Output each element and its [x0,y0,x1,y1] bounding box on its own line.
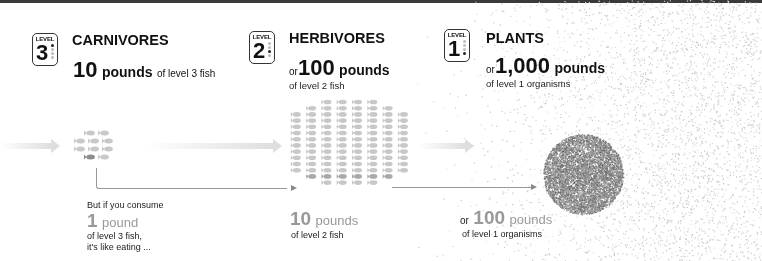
fish [352,149,362,154]
fish [291,168,301,173]
fish [352,143,362,148]
fish [98,130,109,135]
fish [321,143,331,148]
comparison-level-2-desc: of level 2 fish [291,230,344,241]
fish [367,100,377,105]
fish [321,100,331,105]
fish [352,118,362,123]
fish [367,137,377,142]
fish [398,162,408,167]
fish [337,162,347,167]
fish [352,112,362,117]
fish [398,168,408,173]
fish-highlighted [84,154,95,159]
fish [337,112,347,117]
fish-highlighted [321,174,331,179]
equiv-level-1-unit: pounds [510,212,553,227]
fish [321,106,331,111]
fish [291,112,301,117]
fish [367,180,377,185]
equiv-level-1-prefix: or [460,215,469,226]
comparison-consume-desc-2: it's like eating ... [87,242,151,253]
fish [383,131,393,136]
fish [291,162,301,167]
fish-highlighted [352,174,362,179]
fish [306,106,316,111]
fish [306,124,316,129]
consume-value: 1 [87,210,98,231]
fish [337,118,347,123]
fish [352,155,362,160]
fish [74,138,85,143]
comparison-consume-amount: 1 pound [87,210,138,232]
fish [398,124,408,129]
fish-highlighted [367,174,377,179]
fish [321,131,331,136]
fish [102,138,113,143]
fish [102,146,113,151]
fish [321,137,331,142]
fish [398,149,408,154]
fish [383,118,393,123]
fish [306,162,316,167]
fish [398,131,408,136]
fish [98,154,109,159]
fish [337,124,347,129]
fish [321,112,331,117]
fish [352,106,362,111]
fish [337,100,347,105]
fish [352,180,362,185]
equiv-level-1-value: 100 [473,207,505,228]
connector-arrowhead-level-1 [531,184,537,190]
fish [367,124,377,129]
fish [352,162,362,167]
fish [306,118,316,123]
equiv-level-2-value: 10 [290,208,311,229]
fish [337,137,347,142]
consume-unit: pound [102,215,138,230]
fish-highlighted [383,174,393,179]
fish-highlighted [337,174,347,179]
fish [383,149,393,154]
fish [352,168,362,173]
fish [367,131,377,136]
fish [337,168,347,173]
fish [337,106,347,111]
fish [84,130,95,135]
fish [367,143,377,148]
fish [367,149,377,154]
fish [88,138,99,143]
fish [398,112,408,117]
fish [321,162,331,167]
comparison-level-2-amount: 10 pounds [290,208,358,230]
comparison-level-1-desc: of level 1 organisms [462,229,542,240]
fish [291,137,301,142]
fish [337,131,347,136]
fish [383,106,393,111]
fish [74,146,85,151]
fish [352,100,362,105]
fish [398,137,408,142]
fish [367,155,377,160]
fish [383,143,393,148]
fish [321,149,331,154]
connector-line-to-level-1 [392,187,532,188]
fish [383,112,393,117]
fish [306,112,316,117]
fish [383,137,393,142]
fish [306,137,316,142]
fish [367,168,377,173]
fish [306,149,316,154]
fish [398,155,408,160]
fish [321,168,331,173]
comparison-level-1-amount: or 100 pounds [460,207,552,229]
fish [367,162,377,167]
equiv-level-2-unit: pounds [316,213,359,228]
fish [321,180,331,185]
comparison-connector [96,168,287,189]
fish [306,155,316,160]
fish [352,131,362,136]
fish [337,143,347,148]
fish [383,155,393,160]
fish [367,106,377,111]
